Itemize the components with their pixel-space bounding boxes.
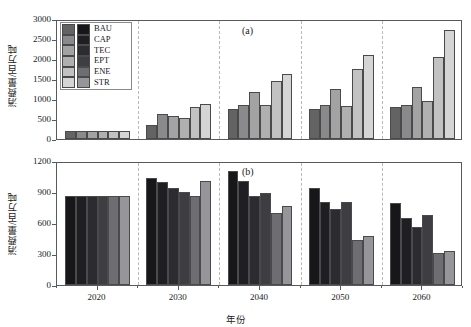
bar-cap-2050 (320, 105, 331, 139)
bar-ept-2060 (422, 101, 433, 139)
y-tick-label: 0 (18, 280, 51, 290)
x-minor-tick-mark (56, 286, 57, 288)
bar-cap-2030 (157, 182, 168, 285)
y-tick-label: 1000 (18, 94, 51, 104)
y-tick-label: 1200 (18, 156, 51, 166)
bar-ept-2030 (179, 192, 190, 285)
legend-label-cap: CAP (94, 35, 112, 45)
x-tick-label: 2050 (320, 292, 360, 302)
legend-swatch-a-bau (62, 24, 75, 35)
y-tick-label: 0 (18, 134, 51, 144)
bar-bau-2050 (309, 188, 320, 285)
bar-tec-2040 (249, 92, 260, 139)
x-tick-mark (97, 286, 98, 290)
group-divider (219, 163, 220, 285)
x-axis-label: 年份 (0, 312, 471, 326)
panel-b: 消费量/百万吨 12009006003000 (b) 2020203020402… (0, 150, 471, 327)
bar-bau-2040 (228, 171, 239, 285)
legend-swatch-b-str (77, 77, 90, 88)
panel-b-plot-area: (b) (56, 162, 462, 286)
chart-legend: BAUCAPTECEPTENESTR (60, 22, 132, 90)
panel-a: 消费量/百万吨 300025002000150010005000 (a) BAU… (0, 0, 471, 150)
x-minor-tick-mark (137, 286, 138, 288)
bar-tec-2060 (412, 227, 423, 285)
legend-swatch-a-cap (62, 35, 75, 46)
bar-ene-2020 (108, 196, 119, 285)
bar-str-2060 (444, 251, 455, 285)
legend-swatch-a-tec (62, 45, 75, 56)
bar-ept-2020 (98, 196, 109, 285)
group-divider (301, 163, 302, 285)
panel-b-bars (57, 163, 461, 285)
group-divider (138, 163, 139, 285)
bar-str-2020 (119, 131, 130, 139)
group-divider (138, 21, 139, 139)
legend-swatch-b-ept (77, 56, 90, 67)
y-tick-label: 2000 (18, 54, 51, 64)
y-tick-label: 900 (18, 187, 51, 197)
bar-ept-2030 (179, 118, 190, 139)
bar-ene-2060 (433, 253, 444, 285)
x-minor-tick-mark (218, 286, 219, 288)
legend-label-ene: ENE (94, 67, 112, 77)
bar-tec-2020 (87, 131, 98, 139)
bar-bau-2050 (309, 109, 320, 139)
y-tick-label: 3000 (18, 14, 51, 24)
bar-bau-2060 (390, 107, 401, 139)
x-tick-mark (421, 286, 422, 290)
panel-a-tag: (a) (242, 25, 253, 36)
group-divider (382, 163, 383, 285)
legend-swatch-b-bau (77, 24, 90, 35)
bar-tec-2050 (330, 209, 341, 285)
group-divider (382, 21, 383, 139)
bar-ene-2030 (190, 196, 201, 285)
bar-ept-2050 (341, 106, 352, 139)
bar-bau-2030 (146, 125, 157, 139)
bar-tec-2020 (87, 196, 98, 285)
x-tick-mark (340, 286, 341, 290)
bar-str-2060 (444, 30, 455, 139)
figure-canvas: 消费量/百万吨 300025002000150010005000 (a) BAU… (0, 0, 471, 327)
bar-bau-2020 (65, 196, 76, 285)
bar-cap-2040 (238, 181, 249, 285)
x-minor-tick-mark (300, 286, 301, 288)
bar-ene-2030 (190, 107, 201, 139)
bar-ept-2020 (98, 131, 109, 139)
legend-swatches-panel-a (62, 24, 75, 88)
bar-str-2020 (119, 196, 130, 285)
legend-label-bau: BAU (94, 24, 112, 34)
bar-cap-2030 (157, 114, 168, 139)
bar-str-2030 (200, 104, 211, 139)
x-tick-label: 2040 (239, 292, 279, 302)
bar-ept-2060 (422, 215, 433, 285)
bar-tec-2050 (330, 89, 341, 139)
legend-swatch-b-tec (77, 45, 90, 56)
bar-tec-2030 (168, 188, 179, 285)
bar-ene-2020 (108, 131, 119, 139)
bar-cap-2040 (238, 105, 249, 139)
x-tick-label: 2020 (77, 292, 117, 302)
bar-ene-2050 (352, 240, 363, 285)
bar-bau-2060 (390, 203, 401, 285)
bar-ene-2050 (352, 69, 363, 139)
bar-cap-2060 (401, 218, 412, 285)
bar-str-2040 (282, 74, 293, 139)
y-tick-label: 500 (18, 114, 51, 124)
x-minor-tick-mark (462, 286, 463, 288)
bar-bau-2040 (228, 109, 239, 139)
bar-tec-2030 (168, 116, 179, 139)
bar-cap-2020 (76, 196, 87, 285)
legend-swatches-panel-b (77, 24, 90, 88)
legend-label-tec: TEC (94, 46, 112, 56)
y-tick-label: 300 (18, 249, 51, 259)
legend-swatch-b-cap (77, 35, 90, 46)
bar-tec-2040 (249, 196, 260, 285)
bar-ept-2050 (341, 202, 352, 285)
group-divider (219, 21, 220, 139)
y-tick-mark (52, 140, 56, 141)
y-tick-label: 600 (18, 218, 51, 228)
bar-ene-2040 (271, 81, 282, 139)
bar-str-2040 (282, 206, 293, 285)
bar-cap-2020 (76, 131, 87, 139)
x-tick-label: 2030 (158, 292, 198, 302)
